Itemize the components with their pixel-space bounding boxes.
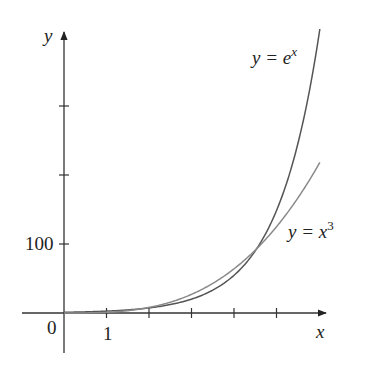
series-label-cubic: y = x3 <box>286 218 334 242</box>
x-axis-label: x <box>315 321 325 342</box>
y-axis-label: y <box>42 25 53 46</box>
x-tick-label-1: 1 <box>103 323 113 344</box>
series-label-exp: y = ex <box>250 44 297 68</box>
origin-label: 0 <box>47 317 57 338</box>
y-tick-label-100: 100 <box>25 233 54 254</box>
curve-exp <box>64 29 320 312</box>
chart: y x 0 1 100 y = ex y = x3 <box>0 0 369 377</box>
curve-cubic <box>64 162 320 313</box>
